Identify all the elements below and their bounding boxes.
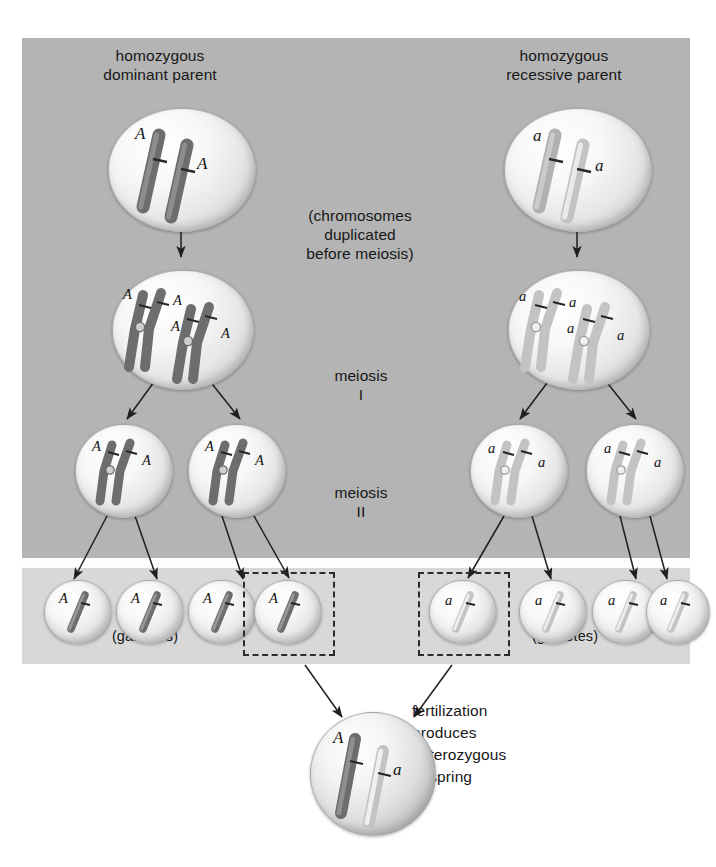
label-fertilization-result: fertilization produces heterozygous offs… (412, 700, 632, 788)
allele-label: a (660, 593, 667, 608)
allele-label: A (269, 591, 278, 606)
gamete-cell: A (116, 580, 184, 644)
allele-label: A (333, 729, 343, 746)
allele-label: A (59, 591, 68, 606)
parent-recessive-cell: a a (504, 108, 652, 232)
meiosis-one-product-cell: A A (75, 424, 173, 518)
allele-label: a (488, 441, 495, 456)
allele-label: A (203, 591, 212, 606)
allele-label: A (171, 319, 180, 334)
gamete-cell: a (646, 580, 710, 644)
duplicated-recessive-cell: a a a a (508, 270, 650, 390)
allele-label: A (131, 591, 140, 606)
allele-label: a (654, 455, 661, 470)
meiosis-one-product-cell: a a (586, 424, 684, 518)
allele-label: a (617, 328, 624, 343)
duplicated-dominant-cell: A A A A (112, 270, 254, 390)
allele-label: a (567, 321, 574, 336)
label-meiosis-two: meiosis II (296, 483, 426, 521)
allele-label: a (519, 289, 526, 304)
allele-label: a (595, 157, 604, 174)
parent-dominant-cell: A A (108, 108, 256, 232)
allele-label: a (569, 295, 576, 310)
gamete-cell-selected: A (254, 580, 322, 644)
gamete-cell: a (519, 580, 587, 644)
label-meiosis-one: meiosis I (296, 366, 426, 404)
allele-label: A (221, 326, 230, 341)
label-homozygous-recessive-parent: homozygous recessive parent (456, 46, 672, 84)
allele-label: a (608, 593, 615, 608)
meiosis-one-product-cell: a a (470, 424, 568, 518)
zygote-cell: A a (310, 712, 436, 836)
meiosis-diagram: homozygous dominant parent homozygous re… (0, 0, 716, 867)
allele-label: A (135, 125, 145, 142)
allele-label: A (123, 287, 132, 302)
gamete-cell: A (44, 580, 112, 644)
allele-label: a (538, 455, 545, 470)
allele-label: A (205, 439, 214, 454)
allele-label: A (173, 293, 182, 308)
gamete-cell-selected: a (429, 580, 497, 644)
meiosis-one-product-cell: A A (188, 424, 286, 518)
allele-label: a (445, 593, 452, 608)
allele-label: A (255, 453, 264, 468)
allele-label: A (142, 453, 151, 468)
label-homozygous-dominant-parent: homozygous dominant parent (60, 46, 260, 84)
allele-label: A (197, 155, 207, 172)
allele-label: a (533, 127, 542, 144)
allele-label: A (92, 439, 101, 454)
allele-label: a (604, 441, 611, 456)
label-chromosomes-duplicated-note: (chromosomes duplicated before meiosis) (268, 206, 452, 264)
allele-label: a (535, 593, 542, 608)
allele-label: a (393, 761, 402, 778)
